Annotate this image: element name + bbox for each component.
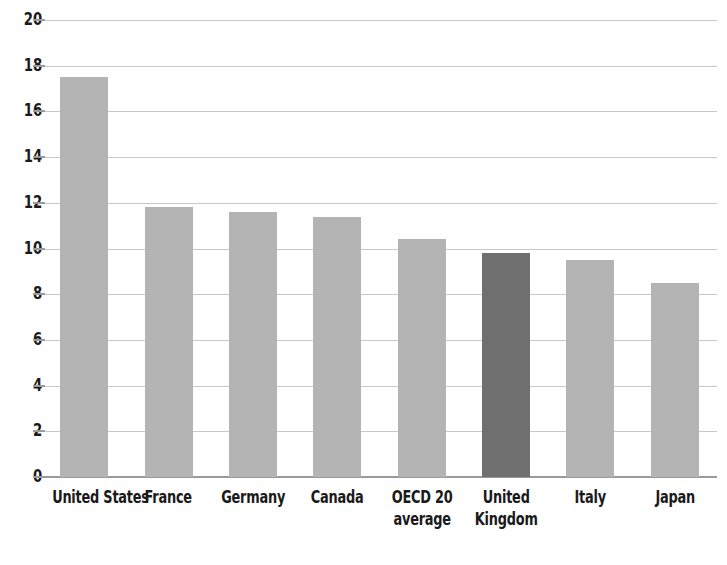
x-axis-label-line: average bbox=[390, 508, 454, 530]
gridline-8 bbox=[42, 294, 717, 295]
x-axis-label-line: Italy bbox=[558, 486, 622, 508]
gridline-18 bbox=[42, 66, 717, 67]
x-axis-label: Japan bbox=[643, 486, 707, 508]
x-axis-label-line: United States bbox=[52, 486, 116, 508]
bar bbox=[651, 283, 699, 477]
y-tick-8 bbox=[33, 293, 45, 295]
x-axis-label-line: Canada bbox=[305, 486, 369, 508]
y-tick-6 bbox=[33, 339, 45, 341]
gridline-6 bbox=[42, 340, 717, 341]
x-axis-label: Germany bbox=[221, 486, 285, 508]
bar bbox=[229, 212, 277, 477]
y-tick-10 bbox=[33, 248, 45, 250]
gridline-14 bbox=[42, 157, 717, 158]
bar bbox=[145, 207, 193, 477]
y-tick-2 bbox=[33, 430, 45, 432]
x-axis-label-line: United bbox=[474, 486, 538, 508]
y-tick-12 bbox=[33, 202, 45, 204]
bar bbox=[313, 217, 361, 477]
x-axis-label-line: Kingdom bbox=[474, 508, 538, 530]
bar bbox=[60, 77, 108, 477]
gridline-16 bbox=[42, 111, 717, 112]
x-axis-label: Italy bbox=[558, 486, 622, 508]
y-tick-14 bbox=[33, 156, 45, 158]
x-axis-baseline bbox=[42, 476, 717, 478]
bar bbox=[566, 260, 614, 477]
y-tick-4 bbox=[33, 385, 45, 387]
plot-area bbox=[42, 20, 717, 477]
x-axis-label-line: Germany bbox=[221, 486, 285, 508]
gridline-12 bbox=[42, 203, 717, 204]
bar-chart: 20181614121086420 United StatesFranceGer… bbox=[0, 0, 727, 565]
x-axis-label-line: Japan bbox=[643, 486, 707, 508]
bar bbox=[482, 253, 530, 477]
gridline-20 bbox=[42, 20, 717, 21]
bar bbox=[398, 239, 446, 477]
x-axis-label-line: OECD 20 bbox=[390, 486, 454, 508]
y-tick-16 bbox=[33, 110, 45, 112]
x-axis-label: France bbox=[137, 486, 201, 508]
x-axis-label: United States bbox=[52, 486, 116, 508]
y-tick-20 bbox=[33, 19, 45, 21]
x-axis-label: Canada bbox=[305, 486, 369, 508]
y-tick-18 bbox=[33, 65, 45, 67]
gridline-2 bbox=[42, 431, 717, 432]
gridline-10 bbox=[42, 249, 717, 250]
gridline-4 bbox=[42, 386, 717, 387]
x-axis-label: OECD 20average bbox=[390, 486, 454, 530]
x-axis-label: UnitedKingdom bbox=[474, 486, 538, 530]
x-axis-label-line: France bbox=[137, 486, 201, 508]
y-tick-0 bbox=[33, 476, 45, 478]
